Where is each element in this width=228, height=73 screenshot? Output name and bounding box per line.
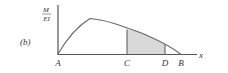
shaded-area xyxy=(127,30,165,55)
point-b: B xyxy=(178,58,184,68)
diagram: M EI (b) x A C D B xyxy=(0,0,228,73)
x-axis-label: x xyxy=(198,50,203,60)
point-c: C xyxy=(124,58,131,68)
point-d: D xyxy=(161,58,169,68)
y-axis-label-denominator: EI xyxy=(42,15,50,23)
point-a: A xyxy=(54,58,61,68)
y-axis-label-numerator: M xyxy=(42,6,50,14)
part-label: (b) xyxy=(20,37,31,47)
